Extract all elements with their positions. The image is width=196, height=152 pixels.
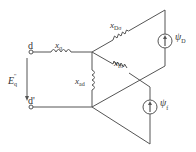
label-psi-f: ψf [160,97,168,111]
label-x-sigma: xσ [54,40,63,51]
wire-xdsigma-a [92,40,113,52]
label-x-f-sigma: xfσ [113,58,124,69]
inductor-x-ad [92,70,95,90]
label-terminal-d-prime: d' [28,95,35,106]
label-x-d-sigma: xDσ [109,20,122,31]
label-x-ad: xad [74,76,85,87]
label-psi-d: ψD [175,31,186,44]
label-terminal-d: d [28,40,33,51]
source-psi-d [158,34,172,48]
wire-psif-return [92,107,150,144]
wire-xdsigma-b [129,10,166,31]
source-psi-f [143,100,157,114]
wire-xfsigma-a [92,52,113,64]
circuit-diagram: d d' Eq'' xσ xad xDσ xfσ ψD ψf [0,0,196,152]
inductor-x-d-sigma [113,30,129,40]
label-voltage: Eq'' [7,73,17,87]
